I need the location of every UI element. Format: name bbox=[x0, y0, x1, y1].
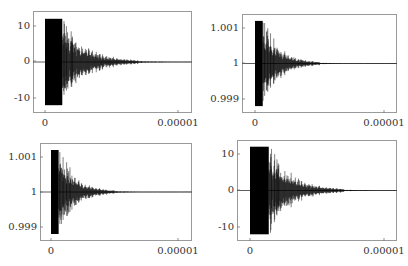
clipped-region bbox=[250, 147, 269, 235]
x-tick-label: 0.00001 bbox=[363, 246, 404, 256]
x-tick-label: 0 bbox=[247, 246, 253, 256]
y-tick-label: 10 bbox=[200, 149, 234, 159]
plot-bottom-right: 100-1000.00001 bbox=[0, 0, 408, 266]
y-tick-label: 0 bbox=[200, 185, 234, 195]
y-tick-label: -10 bbox=[200, 222, 234, 232]
